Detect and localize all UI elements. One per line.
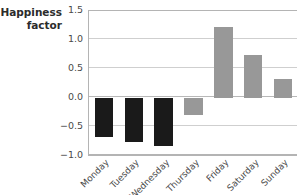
bar-chart: Happiness factor 1.51.00.50.0−0.5−1.0 Mo… [0, 0, 297, 195]
bar [274, 79, 293, 98]
x-tick-label: Sunday [260, 158, 290, 188]
bar [184, 98, 203, 115]
y-axis-tick-labels: 1.51.00.50.0−0.5−1.0 [56, 0, 83, 195]
y-tick-label: 1.5 [56, 5, 83, 15]
x-tick-label: Monday [80, 158, 111, 189]
x-axis-tick-labels: MondayTuesdayWednesdayThursdayFridaySatu… [88, 155, 297, 195]
x-tick-label: Saturday [226, 158, 261, 193]
gridline [89, 125, 297, 126]
gridline [89, 38, 297, 39]
y-tick-label: −1.0 [56, 150, 83, 160]
y-tick-label: 1.0 [56, 34, 83, 44]
bar [154, 98, 173, 146]
gridline [89, 67, 297, 68]
y-tick-label: 0.0 [56, 92, 83, 102]
plot-area [88, 10, 297, 155]
y-axis-title: Happiness factor [0, 6, 62, 31]
bar [244, 55, 263, 99]
bar [95, 98, 114, 137]
bar [125, 98, 144, 142]
y-tick-label: −0.5 [56, 121, 83, 131]
x-tick-label: Friday [205, 158, 231, 184]
bar [214, 27, 233, 98]
y-tick-label: 0.5 [56, 63, 83, 73]
